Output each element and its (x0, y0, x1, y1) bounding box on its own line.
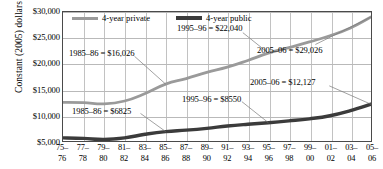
x-axis-tick-labels: 75–7677–7879–8081–8283–8485–8687–8889–90… (62, 143, 372, 169)
x-tick-top: 05– (359, 143, 383, 154)
legend-label-public: 4-year public (206, 13, 252, 23)
annotation-leader-line (140, 113, 165, 131)
chart-legend: 4-year private 4-year public (72, 13, 252, 23)
y-axis-tick-label: $15,000 (33, 85, 60, 95)
annotation-public-1985: 1985–86 = $6825 (72, 106, 131, 116)
annotation-private-2005: 2005–06 = $29,026 (257, 45, 322, 55)
annotation-leader-line (242, 102, 269, 123)
x-tick-bottom: 06 (359, 154, 383, 165)
annotation-public-1995: 1995–96 = $8550 (182, 94, 241, 104)
annotation-private-1995: 1995–96 = $22,040 (177, 23, 242, 33)
legend-swatch-public-icon (176, 16, 202, 20)
y-axis-tick-label: $25,000 (33, 32, 60, 42)
y-axis-tick-label: $10,000 (33, 111, 60, 121)
annotation-private-1985: 1985–86 = $16,026 (69, 48, 134, 58)
y-axis-tick-label: $30,000 (33, 6, 60, 16)
legend-swatch-private-icon (72, 17, 98, 20)
legend-entry-private: 4-year private (72, 13, 150, 23)
x-axis-tick-label: 05–06 (359, 143, 383, 164)
annotation-public-2005: 2005–06 = $12,127 (250, 77, 315, 87)
annotation-leader-line (329, 86, 371, 104)
annotation-leader-line (315, 17, 371, 44)
legend-label-private: 4-year private (102, 13, 150, 23)
y-axis-tick-label: $20,000 (33, 58, 60, 68)
legend-entry-public: 4-year public (176, 13, 252, 23)
annotation-leader-line (135, 56, 166, 84)
